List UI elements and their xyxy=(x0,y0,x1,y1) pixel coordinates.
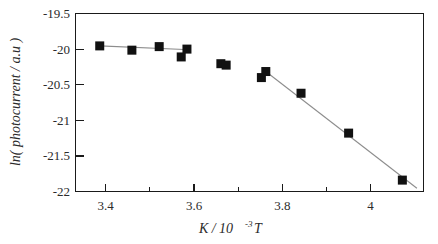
y-tick-label: -21 xyxy=(53,113,70,128)
data-point xyxy=(177,52,186,61)
data-point xyxy=(155,42,164,51)
x-axis-title-exponent: -3 xyxy=(245,219,253,229)
x-axis-title-unit: T xyxy=(254,221,263,236)
y-axis-ticks xyxy=(76,14,84,192)
data-point xyxy=(261,67,270,76)
x-axis-title: K / 10 -3 T xyxy=(198,219,263,236)
chart-canvas: -19.5 -20 -20.5 -21 -21.5 -22 3.4 3.6 3.… xyxy=(0,0,438,244)
x-tick-label: 3.8 xyxy=(274,198,290,213)
y-axis-title: ln( photocurrent / a.u ) xyxy=(8,38,24,167)
x-tick-label: 4 xyxy=(367,198,374,213)
y-axis-tick-labels: -19.5 -20 -20.5 -21 -21.5 -22 xyxy=(43,6,70,199)
y-tick-label: -20 xyxy=(53,42,70,57)
x-tick-label: 3.4 xyxy=(98,198,115,213)
data-point xyxy=(297,89,306,98)
data-point-markers xyxy=(95,41,407,184)
data-point xyxy=(222,61,231,70)
plot-frame xyxy=(76,14,424,192)
fit-lines xyxy=(100,46,417,188)
x-axis-title-base: K / 10 xyxy=(198,221,233,236)
x-axis-tick-labels: 3.4 3.6 3.8 4 xyxy=(98,198,375,213)
y-tick-label: -22 xyxy=(53,184,70,199)
fit-line-high-regime xyxy=(266,72,417,189)
x-axis-ticks xyxy=(106,184,371,192)
x-tick-label: 3.6 xyxy=(186,198,203,213)
data-point xyxy=(95,41,104,50)
data-point xyxy=(182,45,191,54)
y-tick-label: -21.5 xyxy=(43,148,70,163)
y-tick-label: -19.5 xyxy=(43,6,70,21)
data-point xyxy=(344,129,353,138)
data-point xyxy=(127,46,136,55)
photocurrent-arrhenius-chart: -19.5 -20 -20.5 -21 -21.5 -22 3.4 3.6 3.… xyxy=(0,0,438,244)
y-tick-label: -20.5 xyxy=(43,77,70,92)
data-point xyxy=(398,176,407,185)
fit-line-low-regime xyxy=(100,46,190,50)
